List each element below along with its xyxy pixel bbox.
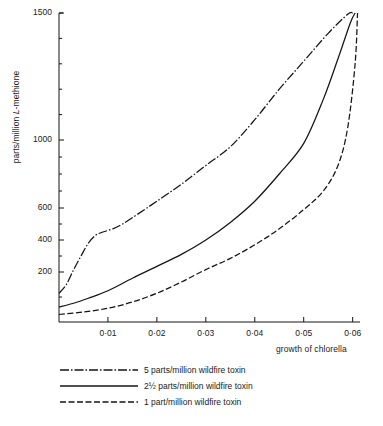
y-axis-title: parts/million L-methione [11,57,21,177]
legend-item: 2½ parts/million wildfire toxin [60,378,360,394]
legend-item-label: 2½ parts/million wildfire toxin [144,381,253,391]
chart-figure: parts/million L-methione growth of chlor… [0,0,383,426]
y-axis-title-suffix: -methione [11,71,21,110]
x-tick-label: 0·06 [331,328,375,338]
x-tick-label: 0·01 [86,328,130,338]
axes-group [59,13,360,322]
y-tick-label: 400 [8,234,52,244]
series-group [59,12,358,314]
y-tick-label: 1500 [8,7,52,17]
y-tick-label: 600 [8,202,52,212]
chart-legend: 5 parts/million wildfire toxin2½ parts/m… [60,362,360,410]
x-tick-label: 0·02 [135,328,179,338]
x-axis-title: growth of chlorella [276,344,347,354]
y-tick-label: 200 [8,266,52,276]
y-tick-label: 1000 [8,134,52,144]
legend-item-label: 5 parts/million wildfire toxin [144,365,246,375]
legend-item-label: 1 part/million wildfire toxin [144,397,241,407]
legend-line-sample [60,365,138,375]
legend-line-sample [60,397,138,407]
series-line-2 [59,13,355,307]
legend-item: 1 part/million wildfire toxin [60,394,360,410]
x-tick-label: 0·04 [233,328,277,338]
series-line-1 [59,12,353,293]
x-tick-label: 0·05 [282,328,326,338]
legend-item: 5 parts/million wildfire toxin [60,362,360,378]
x-tick-label: 0·03 [184,328,228,338]
y-axis-title-italic: L [11,109,21,114]
legend-line-sample [60,381,138,391]
